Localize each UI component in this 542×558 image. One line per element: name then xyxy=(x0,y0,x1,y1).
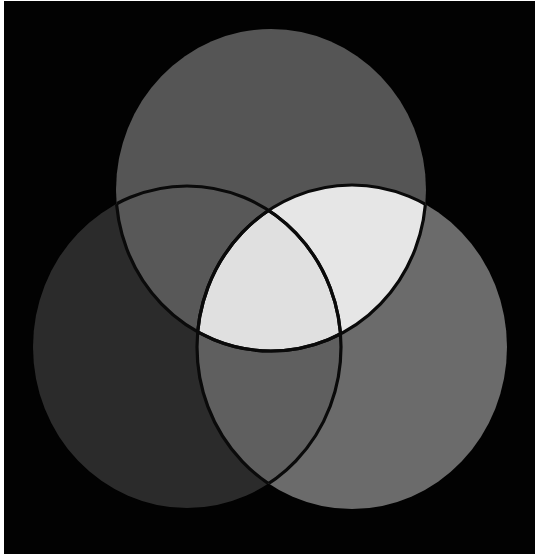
venn-diagram xyxy=(0,0,542,558)
